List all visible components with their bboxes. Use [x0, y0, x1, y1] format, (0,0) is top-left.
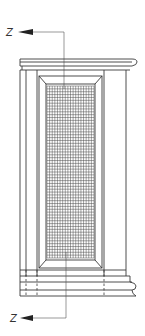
arrow-left-icon: [20, 315, 33, 321]
section-label-top: Z: [5, 27, 14, 38]
arrow-left-icon: [18, 29, 33, 35]
top-cap: [20, 59, 137, 70]
section-marker-top: Z: [5, 27, 64, 89]
section-label-bottom: Z: [9, 313, 18, 324]
mesh-screen: [47, 86, 94, 258]
elevation-drawing: Z: [0, 0, 145, 336]
section-marker-bottom: Z: [9, 252, 66, 324]
